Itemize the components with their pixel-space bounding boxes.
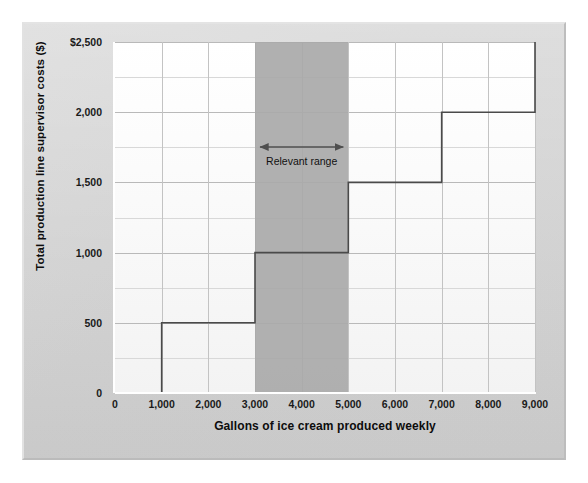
x-axis-line [115,392,536,394]
step-cost-chart: 05001,0001,5002,000$2,500 01,0002,0003,0… [0,0,588,483]
x-axis-tick-label: 5,000 [335,398,361,410]
x-axis-tick-label: 3,000 [242,398,268,410]
x-axis-tick-label: 6,000 [382,398,408,410]
y-axis-tick-label: 2,000 [76,106,102,118]
y-axis-tick-label: 1,500 [76,176,102,188]
x-axis-tick-label: 4,000 [289,398,315,410]
plot-area [115,42,535,393]
y-axis-line [113,42,115,393]
x-axis-tick-label: 7,000 [429,398,455,410]
y-axis-tick-label: 500 [84,317,102,329]
x-axis-tick-label: 8,000 [475,398,501,410]
y-axis-tick-label: $2,500 [70,36,102,48]
y-axis-tick-labels: 05001,0001,5002,000$2,500 [0,42,108,393]
x-axis-tick-labels: 01,0002,0003,0004,0005,0006,0007,0008,00… [115,398,535,414]
x-axis-tick-label: 9,000 [522,398,548,410]
x-axis-tick-label: 2,000 [195,398,221,410]
x-axis-title: Gallons of ice cream produced weekly [115,419,535,433]
y-axis-tick-label: 0 [96,387,102,399]
y-axis-title: Total production line supervisor costs (… [34,6,46,306]
step-cost-line [115,42,535,393]
x-axis-tick-label: 1,000 [149,398,175,410]
y-axis-tick-label: 1,000 [76,247,102,259]
x-axis-tick-label: 0 [112,398,118,410]
